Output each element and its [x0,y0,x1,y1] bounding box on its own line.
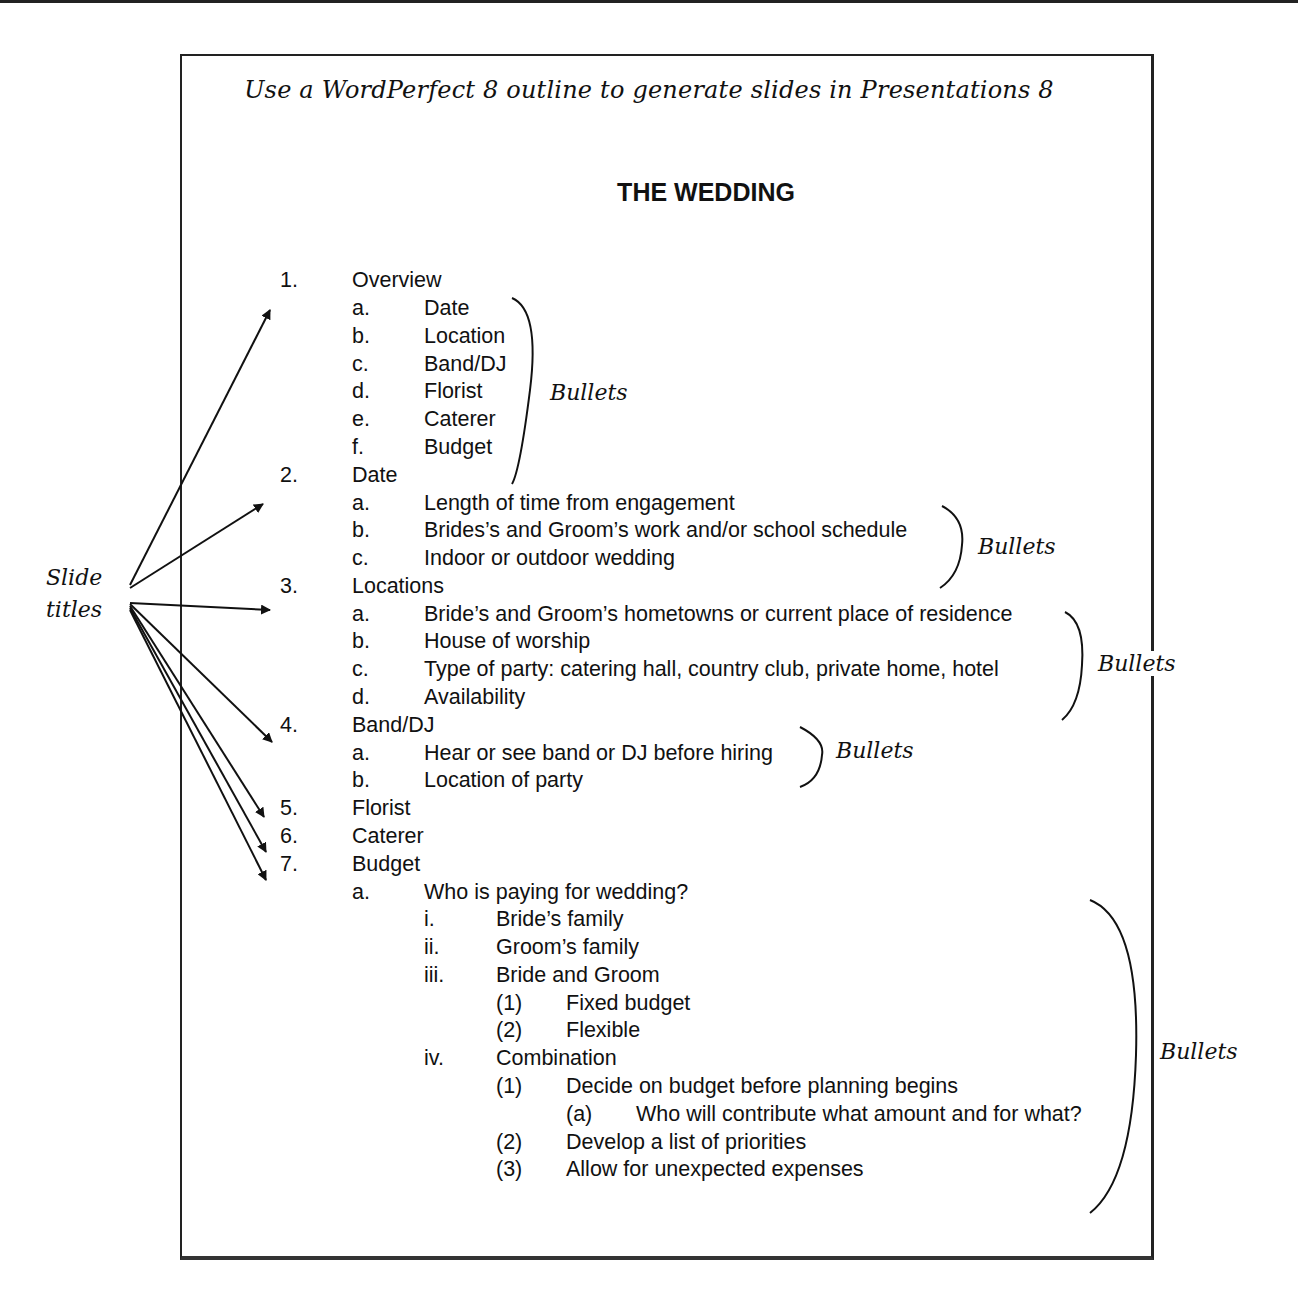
bullets-label-5: Bullets [1158,1039,1240,1064]
outline-item-number: 6. [280,822,298,850]
outline-item-text: Band/DJ [424,350,506,378]
outline-item-number: c. [352,350,369,378]
outline-item-text: Who will contribute what amount and for … [636,1100,1082,1128]
outline-item-number: (3) [496,1155,522,1183]
outline-item-number: e. [352,405,370,433]
outline-item-number: a. [352,294,370,322]
outline-item-text: Locations [352,572,444,600]
outline-item-text: Band/DJ [352,711,434,739]
outline-item-number: b. [352,627,370,655]
bullets-label-2: Bullets [976,534,1058,559]
outline-item-text: Allow for unexpected expenses [566,1155,864,1183]
outline-item-text: Overview [352,266,442,294]
outline-item-text: Brides’s and Groom’s work and/or school … [424,516,907,544]
outline-item-text: Bride and Groom [496,961,660,989]
outline-item-number: d. [352,683,370,711]
outline-item-text: Groom’s family [496,933,639,961]
outline-item-number: 4. [280,711,298,739]
slide-titles-label-line1: Slide [44,565,104,590]
top-rule [0,0,1298,3]
outline-item-text: Location of party [424,766,583,794]
outline-item-text: Bride’s family [496,905,623,933]
outline-item-number: (1) [496,989,522,1017]
outline-item-number: iv. [424,1044,444,1072]
outline-item-text: Who is paying for wedding? [424,878,688,906]
outline-item-text: Date [424,294,469,322]
outline-item-number: a. [352,489,370,517]
outline-item-number: iii. [424,961,444,989]
outline-item-number: 2. [280,461,298,489]
outline-item-number: 3. [280,572,298,600]
outline-item-number: a. [352,739,370,767]
outline-item-number: b. [352,766,370,794]
outline-item-text: House of worship [424,627,590,655]
outline-item-text: Budget [424,433,492,461]
outline-item-text: Availability [424,683,525,711]
outline-item-text: Caterer [424,405,496,433]
outline-item-text: Budget [352,850,420,878]
outline-item-text: Fixed budget [566,989,690,1017]
outline-item-number: c. [352,655,369,683]
outline-item-number: d. [352,377,370,405]
outline-item-text: Caterer [352,822,424,850]
outline-item-text: Decide on budget before planning begins [566,1072,958,1100]
outline-item-number: ii. [424,933,440,961]
outline-item-text: Florist [352,794,411,822]
outline-item-text: Develop a list of priorities [566,1128,806,1156]
outline-item-number: 5. [280,794,298,822]
outline-item-text: Combination [496,1044,617,1072]
outline-item-number: (1) [496,1072,522,1100]
outline-item-text: Type of party: catering hall, country cl… [424,655,999,683]
outline-item-text: Florist [424,377,483,405]
outline-item-text: Indoor or outdoor wedding [424,544,675,572]
bullets-label-4: Bullets [834,738,916,763]
outline-item-number: b. [352,516,370,544]
outline-item-number: a. [352,878,370,906]
outline-item-number: (2) [496,1128,522,1156]
outline-item-number: 7. [280,850,298,878]
bullets-label-3: Bullets [1096,651,1178,676]
outline-item-number: (a) [566,1100,592,1128]
outline-item-number: i. [424,905,435,933]
outline-item-number: f. [352,433,364,461]
outline-item-text: Length of time from engagement [424,489,735,517]
slide-titles-label-line2: titles [44,597,104,622]
outline-item-text: Location [424,322,505,350]
outline-item-number: 1. [280,266,298,294]
outline-item-text: Bride’s and Groom’s hometowns or current… [424,600,1012,628]
outline-item-number: b. [352,322,370,350]
document-title: THE WEDDING [0,178,1298,207]
outline-item-text: Flexible [566,1016,640,1044]
outline-item-number: (2) [496,1016,522,1044]
bullets-label-1: Bullets [548,380,630,405]
outline-item-number: c. [352,544,369,572]
outline-item-number: a. [352,600,370,628]
outline-item-text: Hear or see band or DJ before hiring [424,739,773,767]
outline-item-text: Date [352,461,397,489]
caption: Use a WordPerfect 8 outline to generate … [0,76,1298,104]
